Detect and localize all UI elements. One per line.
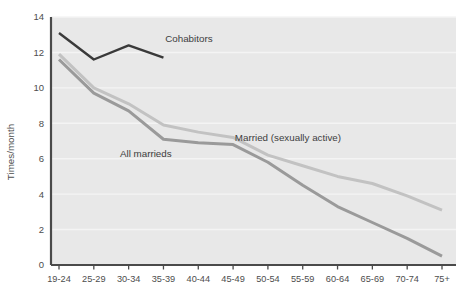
series-annotation-all-marrieds: All marrieds bbox=[120, 148, 172, 159]
x-tick-label: 40-44 bbox=[187, 274, 211, 284]
x-tick-label: 30-34 bbox=[117, 274, 141, 284]
y-tick-label: 6 bbox=[39, 153, 44, 164]
x-tick-label: 70-74 bbox=[395, 274, 419, 284]
series-annotation-married-sexually-active: Married (sexually active) bbox=[235, 132, 341, 143]
y-tick-labels-group: 02468101214 bbox=[33, 11, 44, 270]
x-tick-labels-group: 19-2425-2930-3435-3940-4445-4950-5455-59… bbox=[47, 274, 450, 284]
x-tick-label: 75+ bbox=[434, 274, 450, 284]
y-tick-label: 10 bbox=[33, 82, 44, 93]
x-tick-label: 50-54 bbox=[256, 274, 280, 284]
y-axis-title: Times/month bbox=[5, 124, 16, 180]
x-tick-label: 35-39 bbox=[152, 274, 176, 284]
y-tick-label: 4 bbox=[39, 189, 44, 200]
x-tick-label: 65-69 bbox=[361, 274, 385, 284]
x-tick-label: 25-29 bbox=[82, 274, 106, 284]
line-chart: 02468101214 19-2425-2930-3435-3940-4445-… bbox=[0, 0, 459, 300]
chart-container: 02468101214 19-2425-2930-3435-3940-4445-… bbox=[0, 0, 459, 300]
y-tick-label: 0 bbox=[39, 259, 44, 270]
y-tick-label: 14 bbox=[33, 11, 44, 22]
y-tick-label: 2 bbox=[39, 224, 44, 235]
x-tick-label: 60-64 bbox=[326, 274, 350, 284]
y-tick-label: 12 bbox=[33, 47, 44, 58]
y-tick-label: 8 bbox=[39, 118, 44, 129]
x-tick-label: 45-49 bbox=[221, 274, 245, 284]
x-tick-label: 55-59 bbox=[291, 274, 315, 284]
x-tick-label: 19-24 bbox=[47, 274, 71, 284]
series-annotation-cohabitors: Cohabitors bbox=[165, 33, 212, 44]
